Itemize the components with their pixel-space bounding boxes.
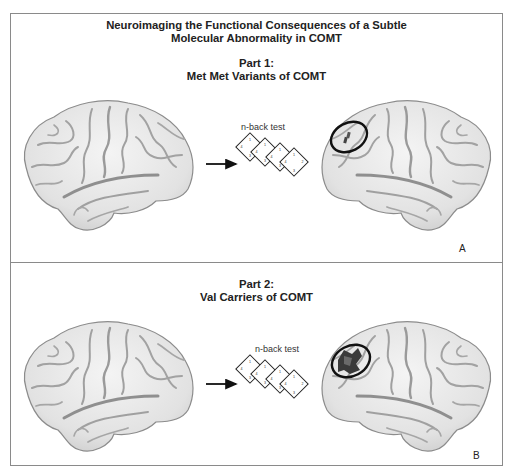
panel-b [24, 322, 490, 451]
panel-a [24, 101, 490, 230]
brain-left-baseline [24, 101, 193, 230]
figure-graphics: 1 2 3 4 [0, 0, 510, 474]
n-back-diamonds [236, 133, 308, 176]
brain-left-baseline [24, 322, 193, 451]
brain-right-activation [322, 101, 491, 230]
n-back-diamonds [236, 355, 308, 398]
brain-right-activation [322, 322, 491, 451]
